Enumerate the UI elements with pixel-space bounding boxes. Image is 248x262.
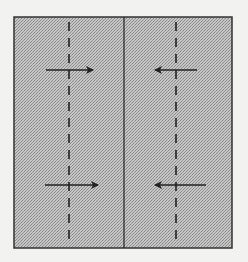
fold-diagram <box>0 0 248 262</box>
paper-square <box>14 17 232 248</box>
